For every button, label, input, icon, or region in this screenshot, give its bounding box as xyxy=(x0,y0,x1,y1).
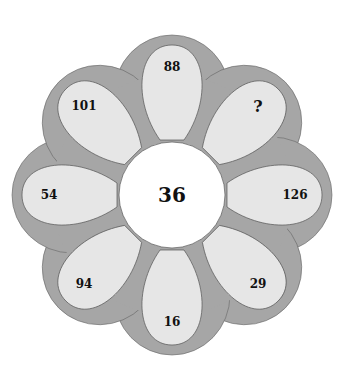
center-value: 36 xyxy=(158,183,186,207)
petal-right-value: 126 xyxy=(282,188,307,202)
petal-bottom-left-value: 94 xyxy=(76,277,93,291)
petal-bottom-right-value: 29 xyxy=(250,277,267,291)
petal-bottom-value: 16 xyxy=(164,315,181,329)
petal-top-right-value: ? xyxy=(253,97,262,116)
petal-top-value: 88 xyxy=(164,60,181,74)
petal-left-value: 54 xyxy=(41,188,58,202)
petal-top-left-value: 101 xyxy=(71,99,96,113)
